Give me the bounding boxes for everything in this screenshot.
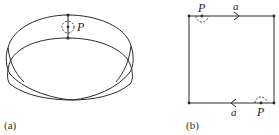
label-p-top: P <box>197 1 206 15</box>
band-top-edge <box>8 15 131 48</box>
band-left-strand-1 <box>6 48 72 100</box>
band-right-strand-2 <box>72 60 132 100</box>
corner-bottom-right <box>273 102 276 105</box>
figure-canvas: P (a) P a a P (b) <box>0 0 279 135</box>
band-inner-edge <box>12 38 128 60</box>
panel-a <box>6 13 133 100</box>
fiber-end-bottom <box>66 36 69 39</box>
label-a-bottom: a <box>231 106 237 118</box>
point-p-top <box>201 15 204 18</box>
corner-bottom-left <box>188 102 191 105</box>
caption-a: (a) <box>4 119 17 132</box>
point-p-bottom <box>260 102 263 105</box>
band-right-cross <box>116 46 131 82</box>
band-right-strand-1 <box>72 46 133 100</box>
label-p-bottom: P <box>256 105 265 119</box>
corner-top-left <box>188 15 191 18</box>
band-left-strand-2 <box>8 58 72 100</box>
point-p-a <box>67 26 70 29</box>
panel-b <box>188 12 276 107</box>
caption-b: (b) <box>186 119 199 132</box>
square <box>189 16 274 103</box>
label-p-a: P <box>76 20 85 34</box>
corner-top-right <box>273 15 276 18</box>
fiber-end-top <box>66 13 69 16</box>
label-a-top: a <box>233 0 239 12</box>
